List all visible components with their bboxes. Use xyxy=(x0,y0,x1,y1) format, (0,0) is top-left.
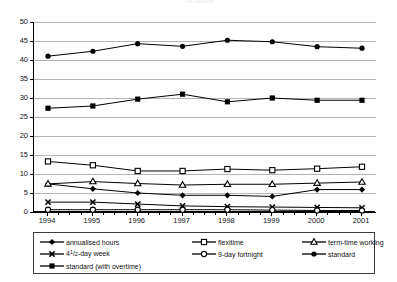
y-axis-tick-label: 50 xyxy=(8,18,28,26)
data-point-filled-square xyxy=(90,103,95,108)
data-point-filled-square xyxy=(270,95,275,100)
data-point-filled-diamond xyxy=(49,239,55,245)
y-axis-tick-label: 45 xyxy=(8,37,28,45)
x-axis-tick-label: 1995 xyxy=(72,216,112,225)
data-point-open-square xyxy=(180,168,185,173)
legend-label: term-time working xyxy=(328,238,384,247)
legend-marker-cross-x-icon xyxy=(40,249,64,259)
plot-area xyxy=(33,22,375,212)
legend-marker-filled-square-icon xyxy=(40,261,64,271)
data-point-open-triangle xyxy=(90,178,96,184)
x-axis-tick-mark xyxy=(92,213,93,216)
y-axis-tick-label: 30 xyxy=(8,94,28,102)
chart-legend: annualised hoursflexitimeterm-time worki… xyxy=(33,232,375,274)
x-axis-minor-tick xyxy=(327,213,328,215)
gridline-0 xyxy=(34,212,376,213)
x-axis-tick-mark xyxy=(316,213,317,216)
data-point-open-square xyxy=(270,168,275,173)
legend-row: standard (with overtime) xyxy=(34,260,374,272)
legend-item-flexitime[interactable]: flexitime xyxy=(192,236,244,248)
x-axis-minor-tick xyxy=(238,213,239,215)
x-axis-tick-mark xyxy=(226,213,227,216)
x-axis-minor-tick xyxy=(114,213,115,215)
legend-marker-filled-diamond-icon xyxy=(40,237,64,247)
x-axis-minor-tick xyxy=(170,213,171,215)
x-axis-minor-tick xyxy=(81,213,82,215)
data-point-filled-circle xyxy=(90,49,95,54)
x-axis-tick-label: 1996 xyxy=(117,216,157,225)
legend-item-9-day-fortnight[interactable]: 9-day fortnight xyxy=(192,248,263,260)
data-point-open-triangle xyxy=(224,181,230,187)
x-axis-minor-tick xyxy=(103,213,104,215)
y-axis-tick-label: 5 xyxy=(8,189,28,197)
legend-item-standard-with-overtime-[interactable]: standard (with overtime) xyxy=(40,260,141,272)
series-layer xyxy=(34,22,376,212)
data-point-filled-circle xyxy=(270,39,275,44)
legend-item-4-day-week[interactable]: 41/2-day week xyxy=(40,248,110,260)
x-axis-minor-tick xyxy=(193,213,194,215)
data-point-open-circle xyxy=(45,207,50,212)
data-point-filled-circle xyxy=(135,41,140,46)
data-point-filled-circle xyxy=(225,38,230,43)
data-point-filled-square xyxy=(135,97,140,102)
data-point-open-circle xyxy=(90,207,95,212)
data-point-open-circle xyxy=(135,207,140,212)
x-axis-minor-tick xyxy=(249,213,250,215)
data-point-open-square xyxy=(359,164,364,169)
series-standard xyxy=(45,38,364,59)
data-point-filled-square xyxy=(225,99,230,104)
data-point-open-square xyxy=(315,166,320,171)
legend-label: 9-day fortnight xyxy=(218,250,263,259)
y-axis-tick-label: 0 xyxy=(8,208,28,216)
data-point-filled-circle xyxy=(180,44,185,49)
series-flexitime xyxy=(45,159,364,174)
data-point-filled-square xyxy=(359,98,364,103)
x-axis-minor-tick xyxy=(148,213,149,215)
x-axis-minor-tick xyxy=(69,213,70,215)
legend-marker-filled-circle-icon xyxy=(302,249,326,259)
x-axis-tick-label: 1994 xyxy=(27,216,67,225)
x-axis-tick-mark xyxy=(182,213,183,216)
x-axis-tick-label: 2001 xyxy=(341,216,381,225)
data-point-filled-square xyxy=(315,98,320,103)
y-axis-tick-label: 20 xyxy=(8,132,28,140)
x-axis-minor-tick xyxy=(159,213,160,215)
data-point-open-square xyxy=(135,168,140,173)
data-point-filled-circle xyxy=(45,54,50,59)
x-axis-minor-tick xyxy=(126,213,127,215)
legend-label: standard (with overtime) xyxy=(66,262,141,271)
x-axis-minor-tick xyxy=(339,213,340,215)
legend-item-standard[interactable]: standard xyxy=(302,248,355,260)
data-point-open-square xyxy=(45,159,50,164)
data-point-open-circle xyxy=(225,207,230,212)
data-point-open-square xyxy=(225,166,230,171)
data-point-filled-diamond xyxy=(224,192,230,198)
data-point-open-square xyxy=(90,163,95,168)
x-axis-minor-tick xyxy=(58,213,59,215)
x-axis-tick-label: 1999 xyxy=(251,216,291,225)
x-axis-tick-mark xyxy=(47,213,48,216)
data-point-open-circle xyxy=(270,208,275,213)
x-axis-minor-tick xyxy=(204,213,205,215)
legend-row: annualised hoursflexitimeterm-time worki… xyxy=(34,236,374,248)
series-standard-with-overtime- xyxy=(45,92,364,111)
y-axis-tick-label: 40 xyxy=(8,56,28,64)
data-point-filled-diamond xyxy=(90,186,96,192)
data-point-filled-diamond xyxy=(179,192,185,198)
series-line xyxy=(48,40,362,56)
data-point-filled-circle xyxy=(311,251,316,256)
y-axis-tick-label: 35 xyxy=(8,75,28,83)
x-axis-tick-label: 2000 xyxy=(296,216,336,225)
data-point-filled-diamond xyxy=(359,186,365,192)
legend-marker-open-circle-icon xyxy=(192,249,216,259)
y-axis-tick-label: 10 xyxy=(8,170,28,178)
x-axis-tick-label: 1998 xyxy=(206,216,246,225)
data-point-filled-diamond xyxy=(135,190,141,196)
x-axis-minor-tick xyxy=(215,213,216,215)
legend-marker-open-square-icon xyxy=(192,237,216,247)
legend-item-annualised-hours[interactable]: annualised hours xyxy=(40,236,119,248)
x-axis-minor-tick xyxy=(350,213,351,215)
legend-label: flexitime xyxy=(218,238,244,247)
x-axis-minor-tick xyxy=(294,213,295,215)
legend-item-term-time-working[interactable]: term-time working xyxy=(302,236,384,248)
